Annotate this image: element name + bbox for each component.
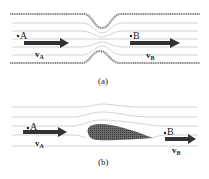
- point-b-label: B: [133, 30, 140, 41]
- figure-canvas: A vA B vB (a): [0, 0, 209, 179]
- point-b-marker-b: [164, 132, 166, 134]
- caption-a: (a): [98, 76, 108, 86]
- point-b-label-b: B: [167, 126, 174, 137]
- velocity-b-label: vB: [146, 50, 155, 61]
- caption-b: (b): [98, 157, 109, 167]
- panel-b: A vA B vB (b): [12, 104, 198, 167]
- velocity-a-label: vA: [35, 49, 45, 60]
- point-a-label: A: [20, 30, 28, 41]
- pipe-top-wall: [10, 14, 200, 28]
- velocity-b-label-b: vB: [172, 145, 181, 156]
- point-a-marker: [17, 35, 19, 37]
- airfoil: [88, 124, 154, 140]
- point-b-panel-a-marker: [27, 127, 29, 129]
- velocity-a-label-b: vA: [35, 138, 45, 149]
- point-b-marker: [130, 35, 132, 37]
- velocity-arrow-a: [24, 38, 69, 48]
- panel-a: A vA B vB (a): [10, 14, 200, 86]
